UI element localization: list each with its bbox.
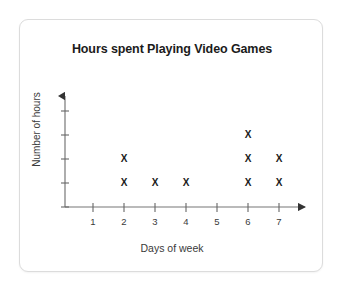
data-point-marker: X (117, 176, 131, 190)
data-point-marker: X (148, 176, 162, 190)
data-point-marker: X (241, 176, 255, 190)
data-point-marker: X (272, 176, 286, 190)
x-tick-label: 2 (117, 216, 131, 227)
data-point-marker: X (117, 152, 131, 166)
data-point-marker: X (241, 128, 255, 142)
data-point-marker: X (179, 176, 193, 190)
chart-card: Hours spent Playing Video Games Number o… (19, 19, 323, 272)
data-point-marker: X (241, 152, 255, 166)
x-tick-label: 3 (148, 216, 162, 227)
data-point-marker: X (272, 152, 286, 166)
chart-axes (20, 20, 324, 273)
x-tick-label: 5 (210, 216, 224, 227)
x-tick-label: 1 (86, 216, 100, 227)
x-tick-label: 4 (179, 216, 193, 227)
plot-area: Hours spent Playing Video Games Number o… (20, 20, 324, 273)
x-tick-label: 7 (272, 216, 286, 227)
x-tick-label: 6 (241, 216, 255, 227)
